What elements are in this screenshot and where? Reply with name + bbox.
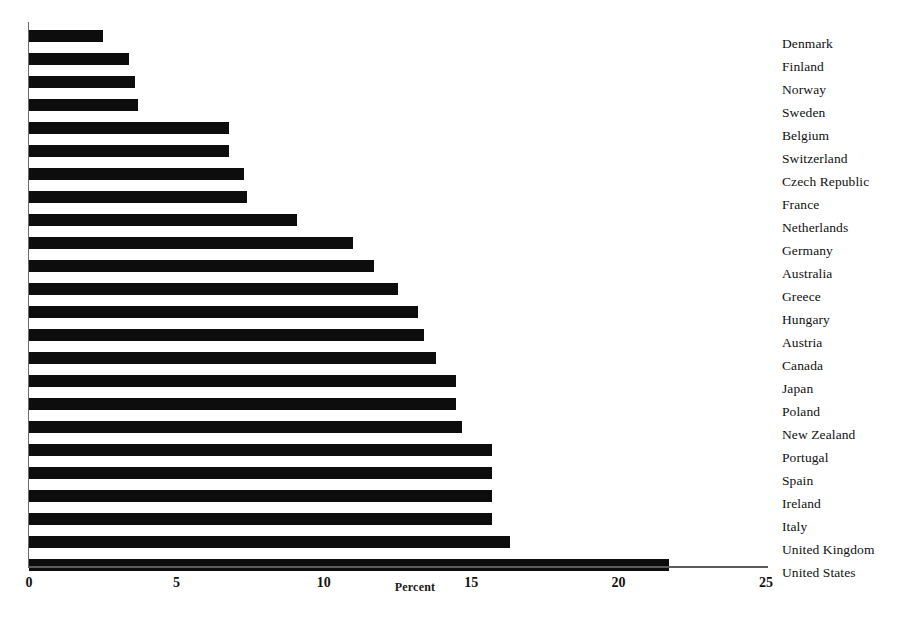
bar-category-label: Australia (782, 266, 832, 281)
bar-row: Czech Republic (0, 165, 910, 188)
bar-category-label: Germany (782, 243, 833, 258)
bar (29, 536, 510, 548)
bar-row: Spain (0, 464, 910, 487)
bar-category-label: Denmark (782, 36, 833, 51)
bar (29, 421, 462, 433)
bar-row: Portugal (0, 441, 910, 464)
bar-category-label: Ireland (782, 496, 821, 511)
bar (29, 398, 456, 410)
bar-category-label: Portugal (782, 450, 829, 465)
bar (29, 237, 353, 249)
bar-category-label: Austria (782, 335, 822, 350)
bar-category-label: Sweden (782, 105, 825, 120)
x-tick-label: 20 (589, 575, 649, 591)
bar-category-label: Poland (782, 404, 820, 419)
bar-row: Norway (0, 73, 910, 96)
bar-category-label: New Zealand (782, 427, 855, 442)
bar-row: Sweden (0, 96, 910, 119)
bar-category-label: Switzerland (782, 151, 848, 166)
bar (29, 490, 492, 502)
bar (29, 168, 244, 180)
bar-category-label: France (782, 197, 819, 212)
bar-row: Australia (0, 257, 910, 280)
bar (29, 53, 129, 65)
bar-row: Belgium (0, 119, 910, 142)
bar-row: Netherlands (0, 211, 910, 234)
bar-row: United Kingdom (0, 533, 910, 556)
bar-row: Canada (0, 349, 910, 372)
x-tick-label: 25 (736, 575, 796, 591)
bar-category-label: Netherlands (782, 220, 848, 235)
x-axis-title: Percent (375, 580, 455, 595)
bar (29, 76, 135, 88)
bar-row: Italy (0, 510, 910, 533)
bar-category-label: Spain (782, 473, 813, 488)
bar-row: Austria (0, 326, 910, 349)
bar (29, 30, 103, 42)
bar (29, 283, 398, 295)
x-axis-line (28, 566, 768, 568)
bar-row: Finland (0, 50, 910, 73)
bar (29, 513, 492, 525)
bar-category-label: Greece (782, 289, 821, 304)
bar (29, 260, 374, 272)
bar-category-label: Japan (782, 381, 813, 396)
bar-row: Ireland (0, 487, 910, 510)
bar-category-label: Hungary (782, 312, 830, 327)
bar (29, 375, 456, 387)
bar-category-label: Canada (782, 358, 823, 373)
bar (29, 306, 418, 318)
horizontal-bar-chart: DenmarkFinlandNorwaySwedenBelgiumSwitzer… (0, 0, 910, 626)
bar (29, 122, 229, 134)
bar (29, 329, 424, 341)
bar-category-label: Norway (782, 82, 826, 97)
x-tick-label: 0 (0, 575, 59, 591)
bar (29, 145, 229, 157)
bar-category-label: United Kingdom (782, 542, 875, 557)
plot-area: DenmarkFinlandNorwaySwedenBelgiumSwitzer… (0, 0, 910, 626)
bar-row: Japan (0, 372, 910, 395)
bar (29, 444, 492, 456)
bar (29, 352, 436, 364)
bar (29, 99, 138, 111)
bar (29, 467, 492, 479)
bar-row: Switzerland (0, 142, 910, 165)
bar (29, 214, 297, 226)
bar-category-label: Italy (782, 519, 807, 534)
bar-row: Hungary (0, 303, 910, 326)
bar-row: Poland (0, 395, 910, 418)
y-axis-line (28, 22, 29, 566)
x-tick-label: 5 (146, 575, 206, 591)
bar-row: New Zealand (0, 418, 910, 441)
bar-category-label: Belgium (782, 128, 829, 143)
bar-row: Greece (0, 280, 910, 303)
bar-category-label: Czech Republic (782, 174, 869, 189)
bar-row: France (0, 188, 910, 211)
bar-row: Germany (0, 234, 910, 257)
bar-row: Denmark (0, 27, 910, 50)
bar (29, 191, 247, 203)
x-tick-label: 10 (294, 575, 354, 591)
bar-category-label: Finland (782, 59, 824, 74)
bar (29, 559, 669, 571)
